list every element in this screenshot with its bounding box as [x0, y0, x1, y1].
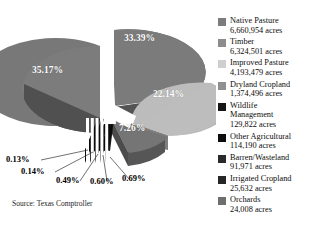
- slice-label-wildlife-management: 0.69%: [122, 173, 145, 183]
- legend-label: Irrigated Cropland: [230, 174, 292, 184]
- legend-label: Barren/Wasteland: [230, 153, 289, 163]
- legend-item-other-agricultural[interactable]: Other Agricultural 114,190 acres: [218, 132, 315, 151]
- legend-label: Wildlife Management: [230, 101, 290, 120]
- legend-swatch-icon: [218, 197, 226, 205]
- legend-value: 24,008 acres: [230, 205, 272, 215]
- legend-swatch-icon: [218, 60, 226, 68]
- source-note: Source: Texas Comptroller: [12, 199, 93, 208]
- legend-label: Timber: [230, 37, 282, 47]
- legend-label: Improved Pasture: [230, 58, 289, 68]
- legend-entry-text: Other Agricultural 114,190 acres: [230, 132, 291, 151]
- legend-value: 1,374,496 acres: [230, 89, 290, 99]
- legend-item-wildlife-management[interactable]: Wildlife Management 129,822 acres: [218, 101, 315, 130]
- legend-swatch-icon: [218, 18, 226, 26]
- pie-chart-plot-area: 33.39% 35.17% 22.14% 7.26% 0.13% 0.14% 0…: [0, 0, 216, 241]
- legend-entry-text: Dryland Cropland 1,374,496 acres: [230, 80, 290, 99]
- legend-item-barren-wasteland[interactable]: Barren/Wasteland 91,971 acres: [218, 153, 315, 172]
- legend-item-dryland-cropland[interactable]: Dryland Cropland 1,374,496 acres: [218, 80, 315, 99]
- legend-item-improved-pasture[interactable]: Improved Pasture 4,193,479 acres: [218, 58, 315, 77]
- legend-label: Orchards: [230, 195, 272, 205]
- legend-item-irrigated-cropland[interactable]: Irrigated Cropland 25,632 acres: [218, 174, 315, 193]
- legend-label: Other Agricultural: [230, 132, 291, 142]
- legend-value: 114,190 acres: [230, 141, 291, 151]
- legend-entry-text: Wildlife Management 129,822 acres: [230, 101, 290, 130]
- legend-swatch-icon: [218, 134, 226, 142]
- slice-label-barren-wasteland: 0.49%: [56, 175, 79, 185]
- slice-label-improved-pasture: 22.14%: [153, 89, 184, 99]
- legend-value: 129,822 acres: [230, 120, 290, 130]
- legend-entry-text: Orchards 24,008 acres: [230, 195, 272, 214]
- legend-entry-text: Improved Pasture 4,193,479 acres: [230, 58, 289, 77]
- legend-swatch-icon: [218, 155, 226, 163]
- legend-item-orchards[interactable]: Orchards 24,008 acres: [218, 195, 315, 214]
- legend-entry-text: Native Pasture 6,660,954 acres: [230, 16, 282, 35]
- legend-entry-text: Irrigated Cropland 25,632 acres: [230, 174, 292, 193]
- legend-label: Native Pasture: [230, 16, 282, 26]
- slice-label-native-pasture: 35.17%: [32, 65, 63, 75]
- slice-label-other-agricultural: 0.60%: [90, 176, 113, 186]
- legend-entry-text: Barren/Wasteland 91,971 acres: [230, 153, 289, 172]
- legend-value: 6,324,501 acres: [230, 47, 282, 57]
- legend-item-timber[interactable]: Timber 6,324,501 acres: [218, 37, 315, 56]
- chart-legend: Native Pasture 6,660,954 acres Timber 6,…: [218, 16, 315, 216]
- slice-label-orchards: 0.13%: [6, 154, 29, 164]
- legend-entry-text: Timber 6,324,501 acres: [230, 37, 282, 56]
- legend-swatch-icon: [218, 176, 226, 184]
- legend-value: 91,971 acres: [230, 162, 289, 172]
- legend-label: Dryland Cropland: [230, 80, 290, 90]
- slice-label-irrigated-cropland: 0.14%: [21, 166, 44, 176]
- slice-label-timber: 33.39%: [124, 33, 155, 43]
- legend-item-native-pasture[interactable]: Native Pasture 6,660,954 acres: [218, 16, 315, 35]
- slice-label-dryland-cropland: 7.26%: [119, 123, 145, 133]
- pie-chart-figure: 33.39% 35.17% 22.14% 7.26% 0.13% 0.14% 0…: [0, 0, 315, 241]
- legend-swatch-icon: [218, 39, 226, 47]
- legend-value: 25,632 acres: [230, 184, 292, 194]
- legend-swatch-icon: [218, 103, 226, 111]
- legend-value: 6,660,954 acres: [230, 26, 282, 36]
- pie-slice-native-pasture[interactable]: [0, 38, 100, 133]
- legend-value: 4,193,479 acres: [230, 68, 289, 78]
- legend-swatch-icon: [218, 82, 226, 90]
